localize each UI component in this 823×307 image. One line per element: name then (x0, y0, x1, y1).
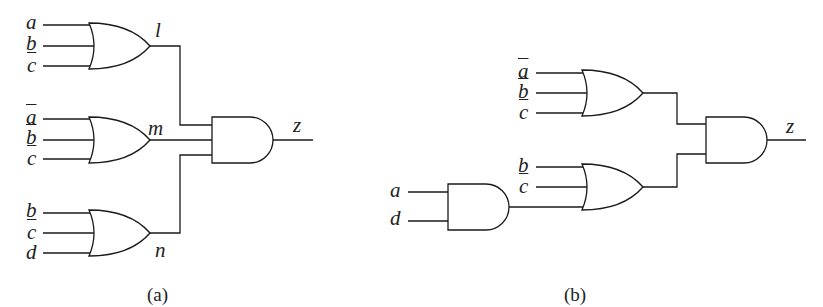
caption-a: (a) (147, 285, 168, 304)
output-label-m: m (148, 118, 163, 139)
output-label-l: l (155, 20, 161, 41)
or-gate-m (43, 117, 212, 163)
caption-b: (b) (564, 285, 586, 304)
circuit-drawing (0, 0, 823, 307)
and-gate-ad (408, 184, 589, 230)
input-label-c-bar: c (27, 148, 36, 169)
circuit-b (408, 70, 806, 230)
circuit-a (43, 23, 313, 256)
input-label-a: a (390, 180, 401, 201)
input-label-c-bar: c (519, 102, 528, 123)
input-label-d: d (390, 208, 401, 229)
input-label-b: b (518, 155, 529, 176)
output-label-z-b: z (786, 116, 794, 137)
or-gate-l (43, 23, 212, 125)
or-gate-top-b (536, 70, 706, 124)
input-label-c-bar: c (519, 176, 528, 197)
logic-circuit-figure: a b c l a b c m b c d n z (a) a b c b c … (0, 0, 823, 307)
input-label-c-bar: c (27, 55, 36, 76)
input-label-d: d (26, 242, 37, 263)
output-label-n: n (155, 240, 166, 261)
or-gate-bottom-b (536, 154, 706, 210)
input-label-b-bar: b (26, 127, 37, 148)
input-label-a: a (26, 12, 37, 33)
output-label-z-a: z (293, 115, 301, 136)
or-gate-n (43, 155, 212, 256)
input-label-b: b (26, 200, 37, 221)
input-label-b-bar: b (518, 81, 529, 102)
input-label-b: b (26, 33, 37, 54)
